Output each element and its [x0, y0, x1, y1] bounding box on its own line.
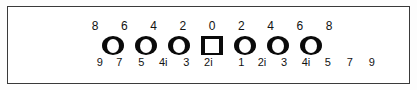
top-tick-label: 8 [322, 20, 336, 32]
bottom-sub-label: 4i [159, 57, 168, 68]
scale-diagram: 8 6 4 2 0 2 4 6 8 9 7 5 4i 3 2i [0, 0, 417, 90]
top-tick-label: 8 [88, 20, 102, 32]
marker-oval-3 [168, 36, 190, 55]
bottom-sub-label-row: 9 7 5 4i 3 2i 1 2i 3 4i 5 7 9 [90, 57, 334, 70]
bottom-sub-label: 7 [347, 57, 353, 68]
top-tick-label: 2 [176, 20, 190, 32]
top-tick-label: 4 [147, 20, 161, 32]
square-glyph-icon [201, 36, 223, 55]
top-tick-label: 4 [264, 20, 278, 32]
bottom-sub-label: 4i [302, 57, 311, 68]
oval-glyph-icon [234, 36, 256, 55]
bottom-sub-label: 3 [183, 57, 189, 68]
top-tick-label-row: 8 6 4 2 0 2 4 6 8 [88, 19, 336, 33]
top-tick-label: 6 [117, 20, 131, 32]
bottom-sub-label: 7 [116, 57, 122, 68]
oval-glyph-icon [102, 36, 124, 55]
bottom-sub-label: 2i [204, 57, 213, 68]
bottom-sub-label: 9 [97, 57, 103, 68]
bottom-sub-label: 1 [238, 57, 244, 68]
top-tick-label: 0 [205, 20, 219, 32]
marker-oval-5 [267, 36, 289, 55]
oval-glyph-icon [300, 36, 322, 55]
bottom-sub-label: 2i [258, 57, 267, 68]
marker-oval-2 [135, 36, 157, 55]
top-tick-label: 6 [293, 20, 307, 32]
bottom-sub-label: 5 [138, 57, 144, 68]
top-tick-label: 2 [234, 20, 248, 32]
oval-glyph-icon [267, 36, 289, 55]
marker-oval-1 [102, 36, 124, 55]
marker-square-center [201, 36, 223, 55]
marker-oval-6 [300, 36, 322, 55]
diagram-frame: 8 6 4 2 0 2 4 6 8 9 7 5 4i 3 2i [0, 0, 417, 90]
bottom-sub-label: 3 [281, 57, 287, 68]
oval-glyph-icon [135, 36, 157, 55]
marker-row [102, 36, 322, 55]
oval-glyph-icon [168, 36, 190, 55]
bottom-sub-label: 9 [369, 57, 375, 68]
marker-oval-4 [234, 36, 256, 55]
bottom-sub-label: 5 [325, 57, 331, 68]
